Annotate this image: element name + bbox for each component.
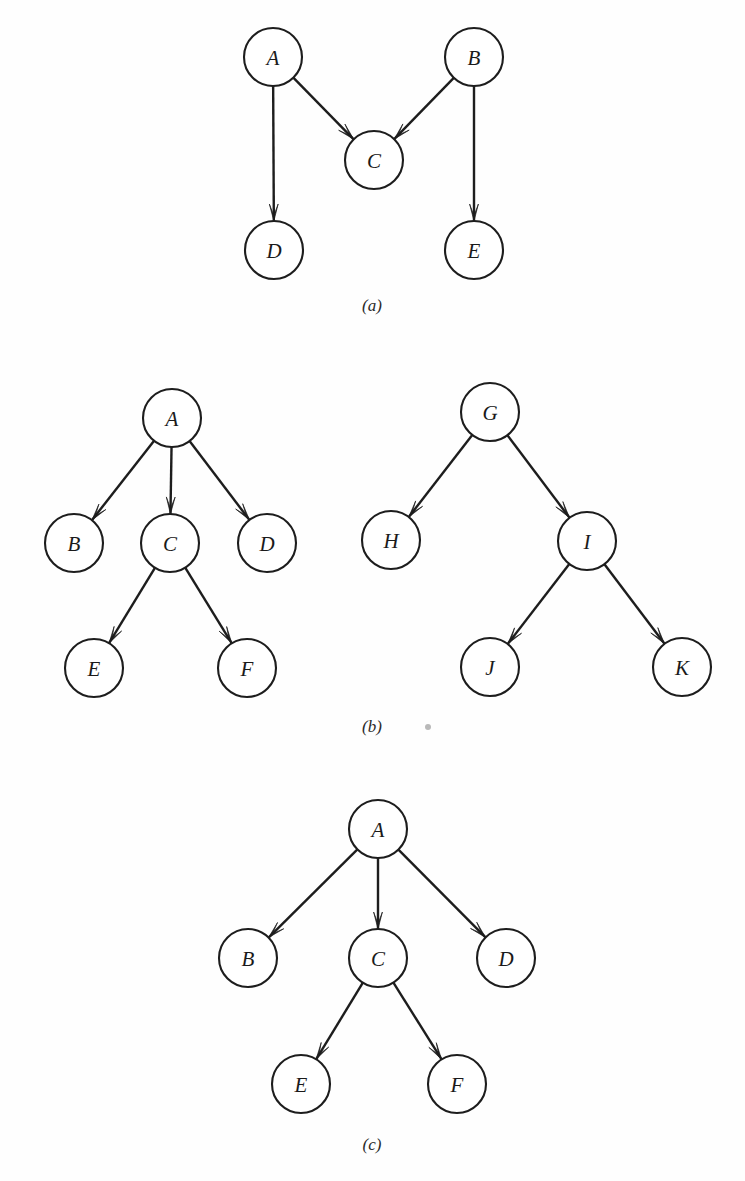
node-C[interactable]: C xyxy=(141,514,199,572)
node-E[interactable]: E xyxy=(65,639,123,697)
edge-A-D xyxy=(269,86,278,221)
node-label: D xyxy=(258,532,274,556)
edge-A-C xyxy=(374,858,383,929)
node-E[interactable]: E xyxy=(445,221,503,279)
edge-A-C xyxy=(293,78,353,140)
panel-a: ABCDE(a) xyxy=(244,28,503,315)
edge-line xyxy=(508,564,570,644)
node-label: G xyxy=(482,401,497,425)
node-label: A xyxy=(265,46,280,70)
node-label: A xyxy=(164,407,179,431)
graph-figure-canvas: ABCDE(a)ABCDEFGHIJK(b)ABCDEF(c) xyxy=(0,0,745,1181)
node-I[interactable]: I xyxy=(558,512,616,570)
node-A[interactable]: A xyxy=(244,28,302,86)
node-G[interactable]: G xyxy=(461,383,519,441)
node-label: E xyxy=(294,1073,308,1097)
node-B[interactable]: B xyxy=(219,929,277,987)
node-label: C xyxy=(367,149,382,173)
node-label: I xyxy=(583,530,592,554)
node-label: B xyxy=(242,947,255,971)
edge-line xyxy=(394,78,454,139)
panel-caption: (c) xyxy=(363,1135,382,1154)
node-label: A xyxy=(370,818,385,842)
edge-A-C xyxy=(166,447,175,514)
edge-G-I xyxy=(507,435,569,518)
node-label: B xyxy=(468,46,481,70)
node-label: C xyxy=(163,532,178,556)
node-D[interactable]: D xyxy=(477,929,535,987)
figure-root: ABCDE(a)ABCDEFGHIJK(b)ABCDEF(c) xyxy=(0,0,745,1181)
node-D[interactable]: D xyxy=(238,514,296,572)
node-B[interactable]: B xyxy=(45,514,103,572)
edge-A-B xyxy=(269,849,358,937)
edge-A-B xyxy=(92,441,154,520)
panel-c-nodes: ABCDEF xyxy=(219,800,535,1113)
edge-G-H xyxy=(409,435,473,517)
node-label: K xyxy=(674,656,690,680)
node-label: E xyxy=(87,657,101,681)
panel-caption: (a) xyxy=(362,296,382,315)
node-F[interactable]: F xyxy=(218,639,276,697)
edge-B-C xyxy=(394,78,454,139)
node-C[interactable]: C xyxy=(345,131,403,189)
edge-A-D xyxy=(398,850,485,938)
edge-line xyxy=(92,441,154,520)
edge-line xyxy=(293,78,353,140)
node-C[interactable]: C xyxy=(349,929,407,987)
edge-line xyxy=(393,983,441,1060)
edge-C-E xyxy=(316,983,363,1060)
node-F[interactable]: F xyxy=(428,1055,486,1113)
edge-line xyxy=(269,849,358,937)
node-H[interactable]: H xyxy=(362,511,420,569)
panels-layer: ABCDE(a)ABCDEFGHIJK(b)ABCDEF(c) xyxy=(45,28,711,1154)
node-label: E xyxy=(467,239,481,263)
node-label: C xyxy=(371,947,386,971)
edge-line xyxy=(507,435,569,518)
node-label: F xyxy=(450,1073,464,1097)
node-label: B xyxy=(68,532,81,556)
panel-b-nodes: ABCDEFGHIJK xyxy=(45,383,711,697)
node-label: F xyxy=(240,657,254,681)
node-label: H xyxy=(382,529,400,553)
panel-b: ABCDEFGHIJK(b) xyxy=(45,383,711,736)
panel-a-nodes: ABCDE xyxy=(244,28,503,279)
node-A[interactable]: A xyxy=(143,389,201,447)
edge-line xyxy=(170,447,171,514)
node-B[interactable]: B xyxy=(445,28,503,86)
edge-line xyxy=(604,564,664,644)
panel-caption: (b) xyxy=(362,717,382,736)
edge-I-J xyxy=(508,564,570,644)
node-label: D xyxy=(497,947,513,971)
edge-I-K xyxy=(604,564,664,644)
node-label: D xyxy=(265,239,281,263)
edge-line xyxy=(185,568,232,644)
node-A[interactable]: A xyxy=(349,800,407,858)
edge-line xyxy=(316,983,363,1060)
edge-A-D xyxy=(190,441,250,520)
edge-line xyxy=(398,850,485,938)
edge-line xyxy=(273,86,274,221)
edge-C-F xyxy=(185,568,232,644)
edge-C-F xyxy=(393,983,441,1060)
scan-speck xyxy=(425,724,431,730)
node-D[interactable]: D xyxy=(245,221,303,279)
node-J[interactable]: J xyxy=(461,638,519,696)
edge-line xyxy=(109,568,155,643)
edge-line xyxy=(409,435,473,517)
node-E[interactable]: E xyxy=(272,1055,330,1113)
panel-c: ABCDEF(c) xyxy=(219,800,535,1154)
edge-C-E xyxy=(109,568,155,643)
edge-line xyxy=(190,441,250,520)
node-K[interactable]: K xyxy=(653,638,711,696)
edge-B-E xyxy=(470,86,479,221)
